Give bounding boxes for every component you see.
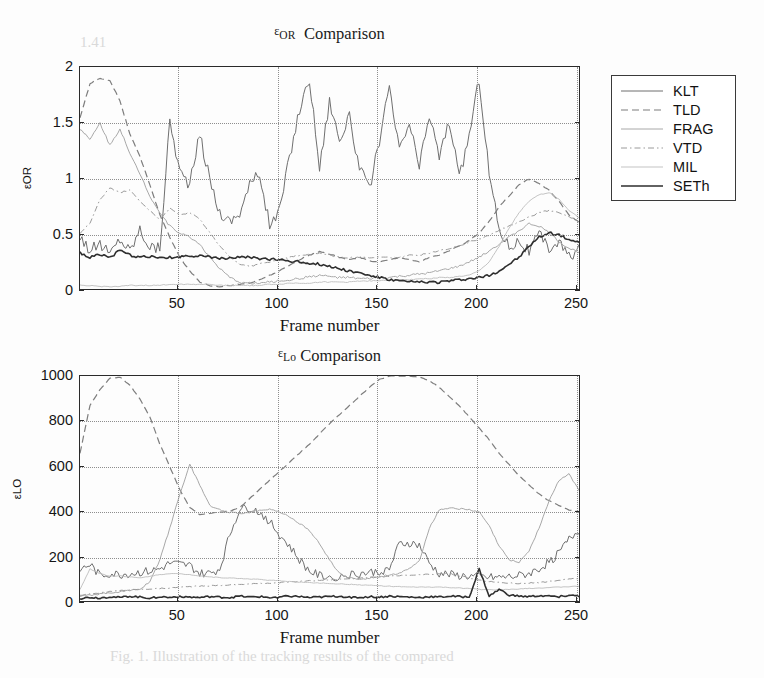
legend-item-frag[interactable]: FRAG <box>619 119 726 138</box>
grid-line-horizontal <box>80 512 579 513</box>
y-tick-mark <box>575 602 580 603</box>
y-tick-mark <box>79 375 84 376</box>
y-tick-mark <box>79 511 84 512</box>
legend-line-sample-seth <box>619 180 665 192</box>
y-tick-mark <box>575 178 580 179</box>
grid-line-horizontal <box>80 179 579 180</box>
grid-line-vertical <box>377 376 378 601</box>
y-tick-mark <box>79 420 84 421</box>
x-tick-mark <box>376 285 377 290</box>
x-tick-label: 150 <box>364 295 388 311</box>
legend-item-seth[interactable]: SETh <box>619 176 726 195</box>
legend-line-sample-mil <box>619 161 665 173</box>
chart-title-epsilon: ε <box>278 346 283 360</box>
grid-line-horizontal <box>80 123 579 124</box>
legend-label-klt: KLT <box>665 83 699 99</box>
y-tick-label: 2 <box>17 58 73 74</box>
y-tick-label: 0.5 <box>17 226 73 242</box>
grid-line-vertical <box>278 67 279 289</box>
legend-line-sample-tld <box>619 104 665 116</box>
y-tick-mark <box>79 122 84 123</box>
series-line-tld <box>80 376 580 515</box>
legend-item-klt[interactable]: KLT <box>619 81 726 100</box>
scan-bleed-text: Fig. 1. Illustration of the tracking res… <box>110 648 454 665</box>
y-tick-label: 200 <box>17 549 73 565</box>
plot-area-bottom <box>79 375 580 602</box>
x-tick-mark <box>277 597 278 602</box>
chart-title-top: εOR Comparison <box>79 24 580 44</box>
x-axis-label-bottom: Frame number <box>79 628 580 648</box>
grid-line-vertical <box>477 67 478 289</box>
y-tick-mark <box>575 557 580 558</box>
series-line-mil <box>80 569 580 590</box>
legend-line-sample-klt <box>619 85 665 97</box>
y-tick-mark <box>79 234 84 235</box>
y-tick-label: 1 <box>17 170 73 186</box>
legend-label-seth: SETh <box>665 178 710 194</box>
legend-line-sample-vtd <box>619 142 665 154</box>
y-tick-mark <box>575 466 580 467</box>
legend-top: KLTTLDFRAGVTDMILSETh <box>611 75 736 201</box>
x-tick-label: 100 <box>264 607 288 623</box>
legend-label-tld: TLD <box>665 102 701 118</box>
y-tick-mark <box>575 66 580 67</box>
x-tick-label: 150 <box>364 607 388 623</box>
grid-line-horizontal <box>80 235 579 236</box>
chart-title-subscript: OR <box>279 29 295 41</box>
legend-label-frag: FRAG <box>665 121 714 137</box>
x-tick-label: 100 <box>264 295 288 311</box>
x-tick-mark <box>476 285 477 290</box>
x-tick-mark <box>376 597 377 602</box>
x-tick-label: 200 <box>464 295 488 311</box>
y-tick-label: 600 <box>17 458 73 474</box>
legend-line-sample-frag <box>619 123 665 135</box>
y-tick-mark <box>79 290 84 291</box>
x-tick-mark <box>277 285 278 290</box>
y-tick-mark <box>575 234 580 235</box>
y-tick-mark <box>575 420 580 421</box>
chart-title-subscript: Lo <box>283 351 296 363</box>
chart-epsilon-lo: εLo Comparison εLO Frame number KLTTLDFR… <box>0 340 764 660</box>
x-tick-label: 250 <box>564 295 588 311</box>
y-tick-label: 400 <box>17 503 73 519</box>
y-tick-label: 0 <box>17 282 73 298</box>
grid-line-horizontal <box>80 421 579 422</box>
grid-line-vertical <box>178 376 179 601</box>
x-axis-label-top: Frame number <box>79 316 580 336</box>
y-tick-mark <box>575 375 580 376</box>
y-tick-label: 0 <box>17 594 73 610</box>
chart-epsilon-or: εOR Comparison εOR Frame number KLTTLDFR… <box>0 18 764 338</box>
y-tick-mark <box>79 178 84 179</box>
y-tick-mark <box>79 66 84 67</box>
grid-line-vertical <box>178 67 179 289</box>
y-axis-epsilon: ε <box>11 494 23 499</box>
grid-line-vertical <box>377 67 378 289</box>
plot-lines-bottom <box>80 376 580 602</box>
grid-line-vertical <box>477 376 478 601</box>
legend-item-tld[interactable]: TLD <box>619 100 726 119</box>
y-tick-label: 1.5 <box>17 114 73 130</box>
legend-item-mil[interactable]: MIL <box>619 157 726 176</box>
y-tick-mark <box>575 290 580 291</box>
y-tick-label: 1000 <box>17 367 73 383</box>
x-tick-label: 50 <box>169 607 185 623</box>
y-tick-mark <box>575 122 580 123</box>
grid-line-vertical <box>577 376 578 601</box>
x-tick-mark <box>177 597 178 602</box>
x-tick-label: 50 <box>169 295 185 311</box>
legend-item-vtd[interactable]: VTD <box>619 138 726 157</box>
x-tick-mark <box>177 285 178 290</box>
grid-line-vertical <box>278 376 279 601</box>
y-axis-subscript: LO <box>11 478 23 493</box>
x-tick-label: 250 <box>564 607 588 623</box>
y-tick-mark <box>79 557 84 558</box>
figure-page: εOR Comparison εOR Frame number KLTTLDFR… <box>0 0 764 678</box>
plot-area-top <box>79 66 580 290</box>
x-tick-mark <box>476 597 477 602</box>
series-line-klt <box>80 84 580 260</box>
y-tick-mark <box>79 466 84 467</box>
grid-line-horizontal <box>80 467 579 468</box>
grid-line-horizontal <box>80 558 579 559</box>
y-tick-mark <box>575 511 580 512</box>
chart-title-bottom: εLo Comparison <box>79 346 580 366</box>
